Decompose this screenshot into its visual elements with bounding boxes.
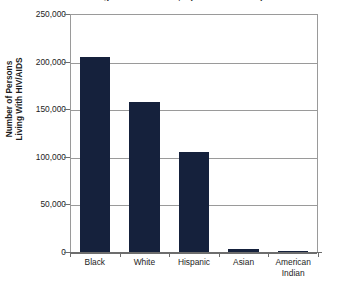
y-axis-tick-labels: 050,000100,000150,000200,000250,000 <box>26 14 66 252</box>
y-axis-tick-label: 250,000 <box>36 9 66 19</box>
x-axis-tick-label-asian: Asian <box>219 257 269 279</box>
y-axis-tick-label: 100,000 <box>36 152 66 162</box>
bar-chart-figure: Persons Living With HIV/AIDS, by Race/Et… <box>0 0 343 291</box>
x-axis-tick-label-hispanic: Hispanic <box>169 257 219 279</box>
x-axis-tick-label-line: American <box>268 257 318 268</box>
x-axis-tick-label-line: Indian <box>268 268 318 279</box>
y-axis-tick-label: 50,000 <box>40 199 66 209</box>
y-axis-tick-label: 150,000 <box>36 104 66 114</box>
x-axis-tick-label-line: Black <box>70 257 120 268</box>
x-axis-tick-mark <box>318 253 319 257</box>
x-axis-tick-label-line: Hispanic <box>169 257 219 268</box>
bar-slot <box>268 14 318 252</box>
y-axis-tick-label: 200,000 <box>36 57 66 67</box>
bar-white[interactable] <box>129 102 159 252</box>
x-axis-tick-label-white: White <box>120 257 170 279</box>
y-axis-tick-mark <box>64 204 70 205</box>
chart-title: Persons Living With HIV/AIDS, by Race/Et… <box>40 0 300 1</box>
y-axis-title-line-2: Living With HIV/AIDS <box>14 58 24 141</box>
bar-black[interactable] <box>80 57 110 252</box>
x-axis-tick-label-line: Asian <box>219 257 269 268</box>
bar-slot <box>120 14 170 252</box>
bars-layer <box>70 14 318 252</box>
y-axis-tick-mark <box>64 109 70 110</box>
bar-slot <box>169 14 219 252</box>
y-axis-tick-mark <box>64 62 70 63</box>
y-axis-tick-mark <box>64 157 70 158</box>
bar-slot <box>219 14 269 252</box>
y-axis-tick-mark <box>64 252 70 253</box>
y-axis-title-line-1: Number of Persons <box>4 61 14 138</box>
bar-slot <box>70 14 120 252</box>
x-axis-tick-label-black: Black <box>70 257 120 279</box>
x-axis-tick-label-american-indian: AmericanIndian <box>268 257 318 279</box>
y-axis-title: Number of Persons Living With HIV/AIDS <box>1 44 27 154</box>
x-axis-tick-labels: BlackWhiteHispanicAsianAmericanIndian <box>70 257 318 279</box>
x-axis-tick-label-line: White <box>120 257 170 268</box>
y-axis-tick-mark <box>64 14 70 15</box>
bar-hispanic[interactable] <box>179 152 209 252</box>
